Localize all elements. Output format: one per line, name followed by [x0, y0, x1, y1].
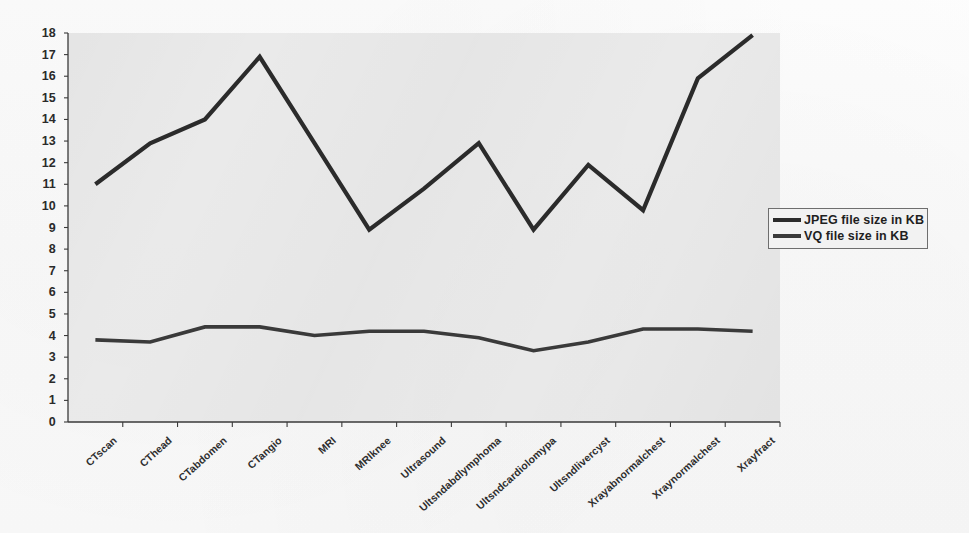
y-tick-label: 6 [30, 286, 56, 299]
y-tick-label: 8 [30, 243, 56, 256]
data-series-lines [95, 35, 752, 351]
y-tick-label: 0 [30, 416, 56, 429]
x-tick-marks [123, 422, 780, 427]
y-tick-label: 9 [30, 222, 56, 235]
y-tick-label: 15 [30, 92, 56, 105]
y-tick-label: 1 [30, 394, 56, 407]
chart-legend: JPEG file size in KB VQ file size in KB [768, 208, 928, 249]
series-line-vq [95, 327, 752, 351]
y-tick-label: 17 [30, 49, 56, 62]
y-tick-label: 13 [30, 135, 56, 148]
legend-label-jpeg: JPEG file size in KB [804, 213, 924, 227]
legend-label-vq: VQ file size in KB [804, 229, 909, 243]
series-line-jpeg [95, 35, 752, 230]
y-tick-label: 3 [30, 351, 56, 364]
y-tick-label: 18 [30, 27, 56, 40]
y-tick-label: 7 [30, 265, 56, 278]
legend-swatch-vq [773, 234, 801, 238]
legend-swatch-jpeg [773, 218, 801, 222]
y-tick-label: 16 [30, 70, 56, 83]
y-tick-label: 11 [30, 178, 56, 191]
y-tick-label: 2 [30, 373, 56, 386]
axis-lines [68, 33, 780, 422]
y-tick-label: 14 [30, 113, 56, 126]
y-tick-label: 4 [30, 330, 56, 343]
legend-item-vq: VQ file size in KB [773, 228, 923, 244]
line-chart: 0123456789101112131415161718 CTscanCThea… [0, 0, 969, 533]
y-tick-label: 5 [30, 308, 56, 321]
legend-item-jpeg: JPEG file size in KB [773, 212, 923, 228]
y-tick-label: 10 [30, 200, 56, 213]
y-tick-label: 12 [30, 157, 56, 170]
